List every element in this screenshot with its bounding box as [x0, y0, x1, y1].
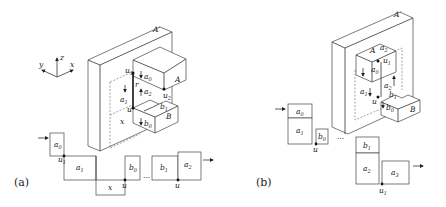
- label-r: r: [135, 80, 139, 89]
- svg-text:u: u: [175, 181, 180, 190]
- block-b-label-b: B: [409, 105, 416, 114]
- ellipsis-b: ···: [337, 134, 344, 143]
- block-b-label: B: [165, 112, 172, 121]
- panel-a: z y x A′ A B: [14, 25, 213, 195]
- axes-icon: z y x: [38, 53, 75, 77]
- svg-text:u1: u1: [379, 186, 387, 196]
- axis-x-label: x: [70, 60, 75, 69]
- caption-b: (b): [256, 176, 272, 189]
- figure-canvas: z y x A′ A B: [0, 0, 446, 207]
- block-a-label: A: [174, 75, 181, 84]
- caption-a: (a): [14, 176, 29, 189]
- label-u-b: u: [372, 97, 377, 106]
- svg-text:u: u: [122, 181, 127, 190]
- svg-text:u: u: [313, 145, 318, 154]
- strip-a: a0 a1 x b0 ··· b1 a2 u1 u u: [38, 133, 213, 195]
- wall-label: A′: [152, 25, 160, 34]
- block-a-label-b: A: [369, 46, 376, 55]
- axis-z-label: z: [59, 53, 64, 62]
- ellipsis: ···: [143, 173, 150, 182]
- panel-b: A′ A B a2 u1 a0 a2 a1 u b1 b0: [256, 10, 423, 196]
- label-u: u: [127, 105, 132, 114]
- axis-y-label: y: [38, 60, 44, 69]
- wall-label-b: A′: [393, 10, 401, 19]
